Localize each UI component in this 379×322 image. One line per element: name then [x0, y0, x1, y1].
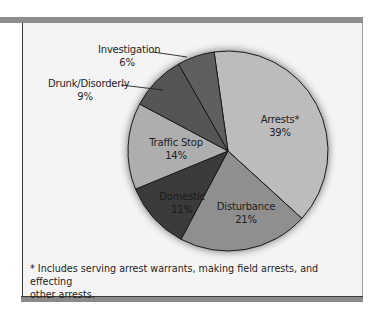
label-traffic-name: Traffic Stop: [144, 136, 208, 149]
label-drunk-disorderly: Drunk/Disorderly 9%: [48, 77, 122, 103]
label-disturbance-name: Disturbance: [214, 200, 278, 213]
label-disturbance: Disturbance 21%: [214, 200, 278, 226]
footnote-line-1: * Includes serving arrest warrants, maki…: [30, 262, 350, 288]
label-arrests-pct: 39%: [248, 126, 312, 139]
label-arrests-name: Arrests*: [248, 113, 312, 126]
footnote: * Includes serving arrest warrants, maki…: [30, 262, 350, 301]
label-disturbance-pct: 21%: [214, 213, 278, 226]
label-domestic: Domestic 11%: [154, 190, 210, 216]
label-domestic-name: Domestic: [154, 190, 210, 203]
label-drunk-name: Drunk/Disorderly: [48, 77, 122, 90]
label-investigation-name: Investigation: [98, 43, 156, 56]
label-investigation: Investigation 6%: [98, 43, 156, 69]
label-investigation-pct: 6%: [98, 56, 156, 69]
label-arrests: Arrests* 39%: [248, 113, 312, 139]
label-traffic-stop: Traffic Stop 14%: [144, 136, 208, 162]
label-domestic-pct: 11%: [154, 203, 210, 216]
label-traffic-pct: 14%: [144, 149, 208, 162]
label-drunk-pct: 9%: [48, 90, 122, 103]
footnote-line-2: other arrests.: [30, 288, 350, 301]
